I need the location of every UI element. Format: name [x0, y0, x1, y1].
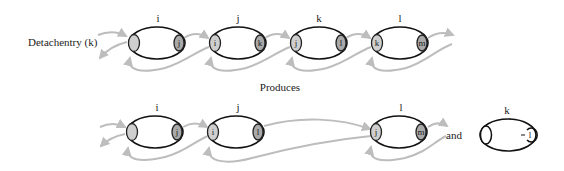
- left-link-label: j: [374, 127, 378, 137]
- node-l-after: l j m: [371, 101, 428, 148]
- incoming-link-arrow: [100, 124, 125, 127]
- right-link-label: j: [177, 38, 181, 48]
- forward-link-out: [428, 33, 453, 38]
- forward-link-j-k: [265, 34, 289, 38]
- right-link-label: j: [175, 127, 179, 137]
- operation-label: Detachentry (k): [28, 36, 98, 49]
- node-k-detached: k l: [480, 104, 537, 151]
- forward-link-i-j: [184, 34, 208, 38]
- node-i-after: i j: [127, 101, 184, 148]
- right-link-label: k: [258, 38, 263, 48]
- left-link-cell: [127, 124, 138, 141]
- left-link-label: k: [375, 38, 380, 48]
- node-name-label: l: [398, 12, 401, 24]
- left-link-label: j: [294, 38, 298, 48]
- left-link-cell: [481, 126, 492, 144]
- node-name-label: j: [235, 101, 239, 113]
- detach-entry-diagram: Detachentry (k) i j j i k k j l: [0, 0, 564, 171]
- node-i-before: i j: [129, 12, 186, 59]
- right-link-label: m: [417, 127, 424, 137]
- and-label: and: [446, 129, 462, 141]
- node-name-label: l: [399, 101, 402, 113]
- forward-link-k-l: [346, 34, 370, 38]
- forward-link-i-j: [183, 124, 207, 128]
- node-name-label: k: [504, 104, 510, 116]
- forward-link-out: [428, 123, 447, 127]
- node-name-label: i: [155, 101, 158, 113]
- outgoing-back-link-arrow: [100, 42, 127, 58]
- right-link-label: m: [418, 38, 425, 48]
- incoming-link-arrow: [98, 32, 126, 36]
- node-j-before: j i k: [210, 12, 267, 59]
- node-k-before: k j l: [291, 12, 348, 59]
- outgoing-back-link-arrow: [101, 134, 125, 146]
- left-link-cell: [129, 35, 140, 52]
- produces-label: Produces: [260, 81, 300, 93]
- node-l-before: l k m: [372, 12, 429, 59]
- node-name-label: i: [156, 12, 159, 24]
- node-name-label: j: [235, 12, 239, 24]
- forward-link-j-l: [264, 120, 370, 129]
- node-j-after: j i l: [208, 101, 265, 148]
- node-name-label: k: [316, 12, 322, 24]
